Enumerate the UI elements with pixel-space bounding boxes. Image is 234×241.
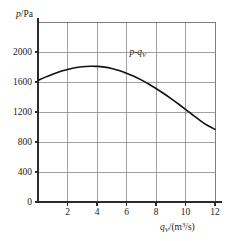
y-tick-label: 1200 (13, 107, 32, 117)
x-tick-label: 12 (210, 207, 220, 217)
x-tick-label: 4 (95, 207, 100, 217)
pressure-flow-chart: 0400800120016002000 24681012 p/Pa qV/(m3… (0, 0, 234, 241)
x-tick-label: 10 (181, 207, 191, 217)
y-tick-label: 800 (18, 137, 33, 147)
chart-figure: 0400800120016002000 24681012 p/Pa qV/(m3… (0, 0, 234, 241)
x-tick-label: 2 (65, 207, 70, 217)
y-tick-label: 2000 (13, 47, 32, 57)
y-axis-title: p/Pa (15, 9, 34, 19)
y-tick-label: 1600 (13, 77, 32, 87)
y-tick-label: 0 (27, 197, 32, 207)
y-tick-label: 400 (18, 167, 33, 177)
x-tick-label: 6 (124, 207, 129, 217)
x-tick-label: 8 (154, 207, 159, 217)
